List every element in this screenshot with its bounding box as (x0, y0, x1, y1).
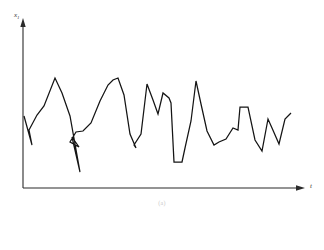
figure-container: x1 t (a) (0, 0, 324, 250)
y-axis-label-subscript: 1 (17, 15, 20, 20)
figure-caption: (a) (0, 200, 324, 206)
signal-plot-svg (0, 0, 324, 250)
y-axis-arrowhead-icon (20, 18, 25, 27)
y-axis-label: x1 (14, 12, 20, 20)
signal-waveform-line (24, 78, 291, 172)
x-axis-label: t (310, 183, 312, 190)
x-axis-arrowhead-icon (296, 185, 305, 190)
